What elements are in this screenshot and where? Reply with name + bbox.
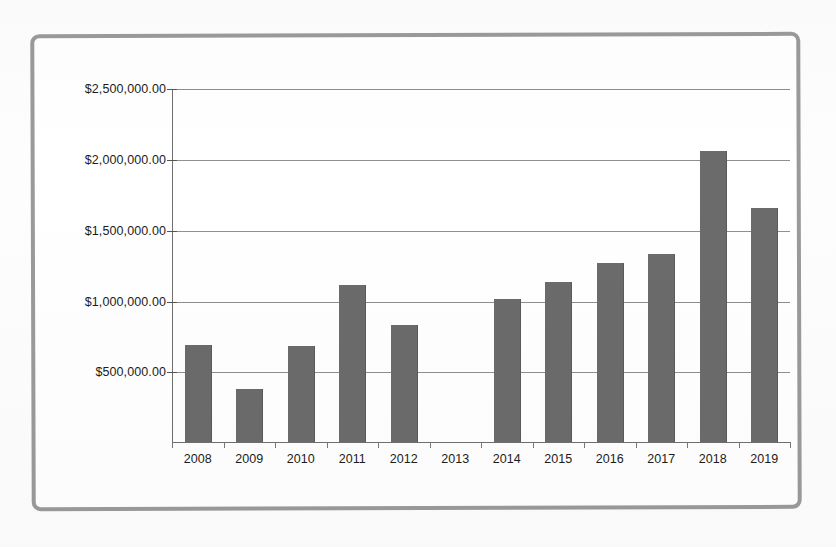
gridline-1500000	[172, 231, 790, 232]
y-tick-label-1000000: $1,000,000.00	[85, 295, 166, 309]
y-tick-label-2000000: $2,000,000.00	[85, 153, 166, 167]
y-tick-mark	[167, 231, 177, 232]
gridline-2500000	[172, 89, 790, 90]
bar-chart: $2,500,000.00 $2,000,000.00 $1,500,000.0…	[0, 0, 836, 547]
y-tick-mark	[167, 302, 177, 303]
x-tick-label-2012: 2012	[380, 452, 428, 466]
x-tick-mark	[172, 442, 173, 448]
y-tick-label-500000: $500,000.00	[95, 365, 166, 379]
x-tick-label-2013: 2013	[431, 452, 479, 466]
x-tick-mark	[739, 442, 740, 448]
y-tick-label-2500000: $2,500,000.00	[85, 82, 166, 96]
x-tick-label-2009: 2009	[225, 452, 273, 466]
x-tick-mark	[378, 442, 379, 448]
x-tick-mark	[430, 442, 431, 448]
gridline-500000	[172, 372, 790, 373]
bar-2017	[648, 254, 675, 442]
x-tick-mark	[584, 442, 585, 448]
bar-2019	[751, 208, 778, 442]
x-tick-mark	[687, 442, 688, 448]
bar-2009	[236, 389, 263, 442]
x-tick-label-2008: 2008	[174, 452, 222, 466]
x-tick-label-2016: 2016	[586, 452, 634, 466]
bar-2012	[391, 325, 418, 442]
bar-2015	[545, 282, 572, 442]
y-axis-line	[172, 89, 173, 443]
x-tick-mark	[275, 442, 276, 448]
bar-2008	[185, 345, 212, 442]
x-tick-label-2010: 2010	[277, 452, 325, 466]
x-tick-mark	[224, 442, 225, 448]
x-tick-mark	[327, 442, 328, 448]
y-tick-mark	[167, 372, 177, 373]
y-tick-mark	[167, 89, 177, 90]
x-tick-label-2019: 2019	[740, 452, 788, 466]
gridline-1000000	[172, 302, 790, 303]
bar-2010	[288, 346, 315, 442]
y-axis-labels: $2,500,000.00 $2,000,000.00 $1,500,000.0…	[34, 0, 166, 547]
x-tick-label-2015: 2015	[534, 452, 582, 466]
bar-2011	[339, 285, 366, 442]
y-tick-mark	[167, 160, 177, 161]
x-tick-label-2018: 2018	[689, 452, 737, 466]
gridline-2000000	[172, 160, 790, 161]
x-tick-mark	[636, 442, 637, 448]
y-tick-label-1500000: $1,500,000.00	[85, 224, 166, 238]
bar-2016	[597, 263, 624, 442]
bar-2018	[700, 151, 727, 442]
x-tick-mark	[533, 442, 534, 448]
x-tick-mark	[790, 442, 791, 448]
x-tick-label-2011: 2011	[328, 452, 376, 466]
x-tick-mark	[481, 442, 482, 448]
x-tick-label-2014: 2014	[483, 452, 531, 466]
x-tick-label-2017: 2017	[637, 452, 685, 466]
bar-2014	[494, 299, 521, 442]
